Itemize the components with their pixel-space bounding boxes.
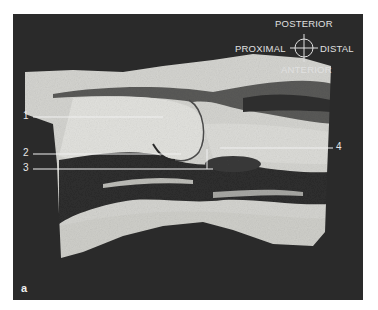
orientation-posterior: POSTERIOR [275,18,333,29]
label-3: 3 [23,162,29,173]
orientation-distal: DISTAL [320,43,354,54]
panel-letter: a [21,282,27,294]
label-2: 2 [23,147,29,158]
orientation-anterior: ANTERIOR [281,64,332,75]
figure-panel: POSTERIOR PROXIMAL DISTAL ANTERIOR 1 2 3… [13,14,363,300]
label-1: 1 [23,110,29,121]
orientation-proximal: PROXIMAL [235,43,286,54]
label-4: 4 [336,141,342,152]
anatomical-specimen-image [13,14,363,300]
